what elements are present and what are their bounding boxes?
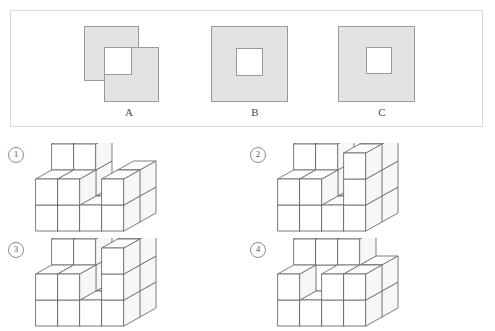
cube-front-face — [294, 144, 316, 170]
shape-b-hole — [237, 49, 263, 76]
cube-front-face — [278, 274, 300, 300]
cube-front-face — [58, 300, 80, 326]
shape-c-hole — [367, 48, 392, 74]
cube-front-face — [36, 179, 58, 205]
cube-figure-1 — [18, 143, 248, 238]
shape-label-a: A — [114, 106, 144, 118]
cube-front-face — [344, 300, 366, 326]
cube-front-face — [52, 239, 74, 265]
cube-front-face — [36, 205, 58, 231]
cube-front-face — [338, 239, 360, 265]
cube-front-face — [102, 248, 124, 274]
shape-label-b: B — [240, 106, 270, 118]
shapes-diagram — [0, 0, 473, 117]
cube-front-face — [102, 274, 124, 300]
cube-front-face — [278, 179, 300, 205]
cube-figure-2 — [260, 143, 490, 238]
cube-figure-4 — [260, 238, 490, 331]
cube-front-face — [300, 300, 322, 326]
shape-label-c: C — [367, 106, 397, 118]
cube-front-face — [36, 300, 58, 326]
cube-front-face — [102, 205, 124, 231]
cube-front-face — [102, 300, 124, 326]
cube-front-face — [74, 239, 96, 265]
cube-front-face — [58, 205, 80, 231]
cube-figure-3 — [18, 238, 248, 331]
cube-front-face — [278, 300, 300, 326]
cube-front-face — [278, 205, 300, 231]
shape-c — [339, 27, 415, 102]
cube-front-face — [316, 144, 338, 170]
cube-front-face — [80, 205, 102, 231]
cube-front-face — [58, 179, 80, 205]
cube-front-face — [344, 274, 366, 300]
cube-front-face — [322, 205, 344, 231]
cube-front-face — [344, 179, 366, 205]
cube-front-face — [322, 300, 344, 326]
cube-front-face — [52, 144, 74, 170]
cube-front-face — [74, 144, 96, 170]
cube-front-face — [58, 274, 80, 300]
cube-front-face — [316, 239, 338, 265]
cube-front-face — [36, 274, 58, 300]
shape-a — [85, 27, 159, 102]
cube-front-face — [300, 179, 322, 205]
cube-front-face — [294, 239, 316, 265]
cube-front-face — [80, 300, 102, 326]
shape-a-hole — [105, 48, 132, 75]
shape-b — [212, 27, 288, 102]
cube-front-face — [344, 205, 366, 231]
cube-front-face — [344, 153, 366, 179]
cube-front-face — [102, 179, 124, 205]
cube-front-face — [322, 274, 344, 300]
cube-front-face — [300, 205, 322, 231]
